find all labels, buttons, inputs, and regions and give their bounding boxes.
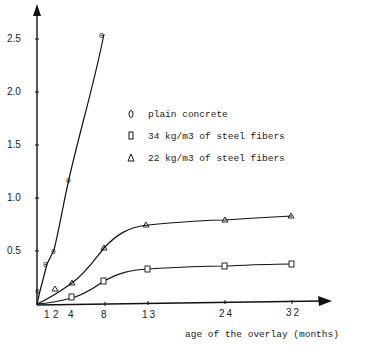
marker-plain-3: 0 [51,247,56,256]
y-tick-1.5: 1.5 [7,139,21,150]
x-axis [37,301,322,305]
chart: 0.5 1.0 1.5 2.0 2.5 1 2 4 8 13 24 32 age… [0,0,368,352]
marker-plain-5: 0 [99,31,104,40]
x-tick-2: 2 [53,309,59,320]
legend: plain concrete 34 kg/m3 of steel fibers … [128,109,285,164]
x-tick-4: 4 [68,309,74,320]
legend-item-34kg-steel: 34 kg/m3 of steel fibers [129,131,285,142]
y-tick-2.0: 2.0 [7,86,21,97]
marker-plain-2: 0 [43,260,48,269]
marker-34-24 [222,263,227,269]
marker-34-13 [145,266,150,272]
x-tick-1: 1 [44,309,50,320]
x-axis-arrow-icon [318,296,332,306]
x-axis-label: age of the overlay (months) [185,329,339,340]
marker-34-4 [69,294,74,300]
x-tick-24: 24 [219,308,234,319]
legend-item-plain-concrete: plain concrete [129,109,228,120]
y-tick-1.0: 1.0 [7,192,21,203]
y-tick-2.5: 2.5 [7,33,21,44]
marker-22-2 [52,286,58,291]
legend-label: 22 kg/m3 of steel fibers [148,153,285,164]
series-plain-concrete: 0 0 0 0 0 [35,31,104,304]
series-34kg-steel [37,261,294,304]
legend-item-22kg-steel: 22 kg/m3 of steel fibers [128,153,285,164]
marker-34-8 [101,278,106,284]
x-tick-32: 32 [286,307,301,318]
y-tick-0.5: 0.5 [7,245,21,256]
marker-plain-4: 0 [66,176,71,185]
x-tick-13: 13 [142,309,157,320]
y-ticks: 0.5 1.0 1.5 2.0 2.5 [7,33,39,256]
legend-label: 34 kg/m3 of steel fibers [148,131,285,142]
marker-34-32 [289,261,294,267]
series-22kg-steel [37,213,294,304]
legend-label: plain concrete [148,109,228,120]
marker-plain-1: 0 [35,287,40,296]
y-axis-arrow-icon [33,4,41,16]
x-tick-8: 8 [101,309,107,320]
